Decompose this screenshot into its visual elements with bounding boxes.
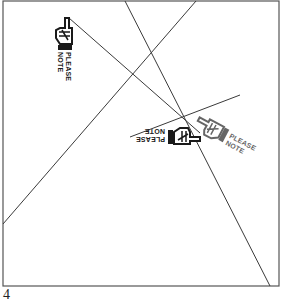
line-b: [3, 1, 196, 224]
page-number: 4: [3, 288, 10, 302]
pointing-hand-icon: PLEASE NOTE: [194, 115, 258, 159]
please-label: PLEASE: [136, 136, 165, 143]
pointing-hand-icon: PLEASE NOTE: [56, 18, 72, 81]
note-label: NOTE: [145, 128, 165, 135]
line-c: [69, 18, 200, 133]
please-label: PLEASE: [65, 52, 72, 81]
geometry-diagram: PLEASE NOTE PLEASE NOTE PLEASE NOTE: [0, 0, 284, 303]
note-label: NOTE: [57, 52, 64, 72]
